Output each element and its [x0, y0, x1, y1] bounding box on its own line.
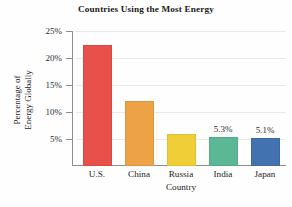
bar	[83, 45, 112, 167]
x-axis-title: Country	[76, 182, 286, 192]
bar-value-label: 5.3%	[203, 125, 243, 134]
y-tick-mark	[66, 139, 72, 140]
y-axis-title-line-1: Percentage of	[12, 70, 23, 130]
y-tick-label: 15%	[22, 81, 62, 90]
bar	[209, 137, 238, 166]
bar-chart: Countries Using the Most Energy Percenta…	[0, 0, 292, 207]
bar	[167, 134, 196, 166]
y-tick-mark	[66, 31, 72, 32]
bar	[251, 138, 280, 166]
y-tick-mark	[66, 112, 72, 113]
x-axis-category-label: U.S.	[73, 169, 121, 179]
y-tick-mark	[66, 58, 72, 59]
y-tick-mark	[66, 85, 72, 86]
chart-title: Countries Using the Most Energy	[0, 4, 292, 14]
plot-area	[76, 31, 286, 166]
x-axis-category-label: Japan	[241, 169, 289, 179]
y-tick-label: 10%	[22, 108, 62, 117]
y-axis-line	[72, 31, 73, 166]
y-tick-label: 5%	[22, 135, 62, 144]
y-axis-title-line-2: Energy Globally	[23, 70, 34, 130]
x-axis-category-label: India	[199, 169, 247, 179]
y-tick-label: 25%	[22, 27, 62, 36]
y-tick-label: 20%	[22, 54, 62, 63]
x-axis-category-label: Russia	[157, 169, 205, 179]
gridline	[76, 31, 286, 32]
bar-value-label: 5.1%	[245, 126, 285, 135]
bar	[125, 101, 154, 166]
x-axis-category-label: China	[115, 169, 163, 179]
